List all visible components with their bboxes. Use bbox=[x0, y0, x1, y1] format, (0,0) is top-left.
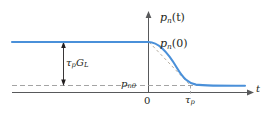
amplitude-label: τpGL bbox=[66, 58, 88, 69]
x-axis-arrow-icon bbox=[247, 90, 254, 96]
initial-value-tail: (0) bbox=[172, 37, 188, 50]
amplitude-gain: G bbox=[76, 57, 84, 68]
figure-canvas: pn(t) pn(0) τpGL pn0 0 τp t bbox=[0, 0, 269, 119]
x-axis-label-text: t bbox=[256, 83, 260, 94]
initial-value-label: pn(0) bbox=[160, 38, 187, 50]
time-constant-tick-label: τp bbox=[185, 95, 195, 106]
x-axis-label: t bbox=[256, 84, 260, 94]
origin-tick-label: 0 bbox=[144, 96, 150, 106]
y-axis-label-tail: (t) bbox=[172, 11, 185, 24]
equilibrium-subscript: n0 bbox=[127, 82, 136, 90]
y-axis-arrow-icon bbox=[146, 11, 152, 18]
plot-svg bbox=[0, 0, 269, 119]
y-axis-label-base: p bbox=[160, 11, 167, 24]
amplitude-gain-subscript: L bbox=[84, 61, 89, 69]
origin-tick-text: 0 bbox=[144, 95, 150, 106]
initial-value-base: p bbox=[160, 37, 167, 50]
equilibrium-label: pn0 bbox=[121, 79, 136, 90]
y-axis-label: pn(t) bbox=[160, 12, 185, 24]
y-axis bbox=[146, 11, 152, 93]
time-constant-subscript: p bbox=[191, 98, 195, 106]
